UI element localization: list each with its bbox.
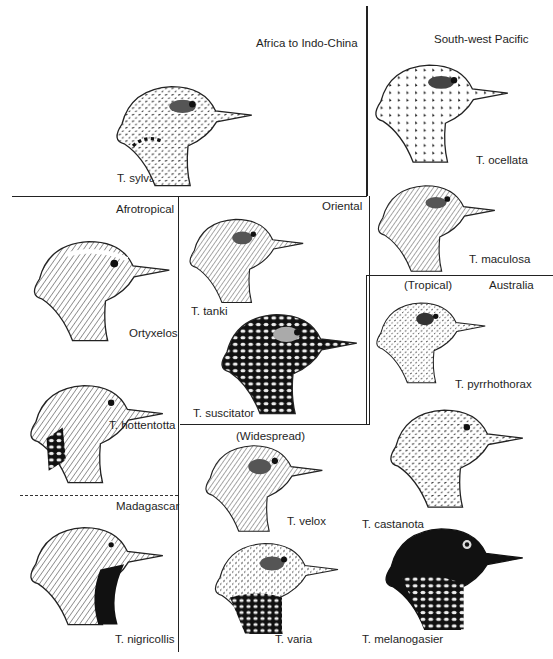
divider-australia-top	[366, 275, 553, 276]
region-label-africa-indochina: Africa to Indo-China	[256, 37, 358, 49]
region-label-tropical: (Tropical)	[404, 279, 452, 291]
bird-illustration-maculosa	[370, 180, 500, 275]
bird-illustration-ortyxelos	[25, 235, 175, 345]
bird-illustration-hottentotta	[25, 378, 165, 488]
divider-australia-left	[366, 275, 367, 425]
divider-oriental-bottom	[180, 424, 370, 425]
bird-illustration-velox	[200, 440, 325, 535]
region-label-afrotropical: Afrotropical	[116, 203, 174, 215]
divider-madagascar-dashed	[20, 495, 178, 496]
bird-illustration-castanota	[385, 400, 525, 515]
bird-illustration-varia	[210, 535, 340, 640]
bird-illustration-tanki	[185, 210, 305, 310]
divider-horizontal-top	[12, 196, 367, 197]
bird-illustration-pyrrhothorax	[372, 292, 487, 392]
region-label-southwest-pacific: South-west Pacific	[434, 33, 529, 45]
bird-illustration-suscitator	[215, 308, 360, 418]
bird-illustration-ocellata	[370, 50, 510, 175]
divider-vertical-right-top	[366, 6, 368, 196]
bird-illustration-sylvatica	[100, 80, 265, 190]
bird-illustration-melanogasier	[380, 513, 525, 643]
region-label-australia: Australia	[489, 279, 534, 291]
region-label-oriental: Oriental	[322, 200, 362, 212]
bird-illustration-nigricollis	[25, 510, 165, 640]
